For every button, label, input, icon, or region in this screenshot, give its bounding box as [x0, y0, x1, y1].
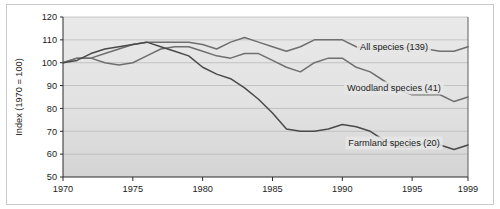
- x-tick-label: 1985: [262, 184, 282, 194]
- x-axis-ticks: 1970197519801985199019951999: [53, 177, 478, 194]
- series-label-farmland-species: Farmland species (20): [348, 138, 439, 148]
- y-tick-label: 50: [47, 172, 57, 182]
- y-tick-label: 90: [47, 81, 57, 91]
- y-tick-label: 80: [47, 104, 57, 114]
- chart-svg: 5060708090100110120 19701975198019851990…: [0, 0, 500, 209]
- x-tick-label: 1975: [123, 184, 143, 194]
- series-label-all-species: All species (139): [360, 42, 428, 52]
- series-label-woodland-species: Woodland species (41): [347, 83, 441, 93]
- y-axis-ticks: 5060708090100110120: [42, 12, 63, 182]
- x-tick-label: 1999: [458, 184, 478, 194]
- x-tick-label: 1980: [192, 184, 212, 194]
- chart-container: 5060708090100110120 19701975198019851990…: [0, 0, 500, 209]
- y-tick-label: 100: [42, 58, 57, 68]
- x-tick-label: 1995: [402, 184, 422, 194]
- x-tick-label: 1970: [53, 184, 73, 194]
- y-tick-label: 60: [47, 149, 57, 159]
- y-tick-label: 70: [47, 127, 57, 137]
- y-axis-title: Index (1970 = 100): [14, 58, 24, 135]
- x-tick-label: 1990: [332, 184, 352, 194]
- y-tick-label: 120: [42, 12, 57, 22]
- y-tick-label: 110: [42, 35, 57, 45]
